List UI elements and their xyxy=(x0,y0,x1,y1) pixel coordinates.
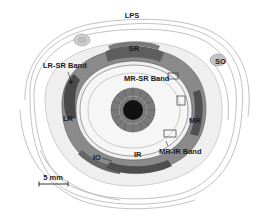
label-so: SO xyxy=(215,57,226,66)
orbit-diagram: LPS SR LR-SR Band MR-SR Band SO LR MR IO… xyxy=(0,0,262,222)
label-io: IO xyxy=(93,153,101,162)
label-lr: LR xyxy=(63,114,74,123)
label-lps: LPS xyxy=(125,11,140,20)
label-ir: IR xyxy=(134,150,142,159)
pupil xyxy=(123,100,143,120)
label-mr-sr-band: MR-SR Band xyxy=(124,74,170,83)
label-mr: MR xyxy=(189,116,201,125)
scale-bar: 5 mm xyxy=(39,173,68,187)
scale-bar-label: 5 mm xyxy=(43,173,63,182)
label-sr: SR xyxy=(129,44,140,53)
lacrimal-structure-core xyxy=(78,37,87,44)
label-lr-sr-band: LR-SR Band xyxy=(43,61,87,70)
label-mr-ir-band: MR-IR Band xyxy=(159,147,202,156)
